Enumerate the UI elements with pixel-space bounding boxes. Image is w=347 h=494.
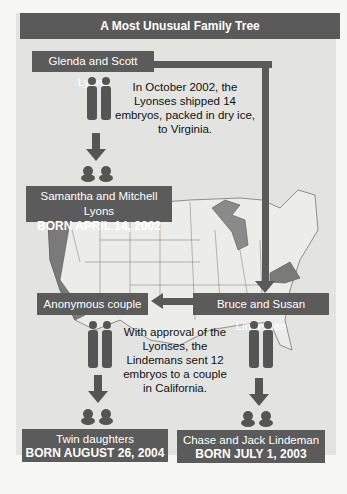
birth-date: BORN AUGUST 26, 2004 [22, 446, 168, 460]
arrow-down-icon [86, 133, 106, 161]
us-map [0, 0, 347, 494]
node-bruce-susan: Bruce and Susan Lindeman [193, 293, 329, 315]
parents-silhouette-icon [83, 320, 117, 370]
connector-lyons-to-virginia-v [262, 61, 269, 281]
arrow-down-icon [249, 378, 269, 406]
babies-icon [80, 408, 116, 426]
arrow-down-to-lindeman [255, 281, 275, 293]
arrow-left-to-anonymous [151, 293, 163, 309]
node-twin-daughters: Twin daughters BORN AUGUST 26, 2004 [22, 429, 168, 462]
babies-icon [240, 410, 276, 428]
node-chase-jack: Chase and Jack Lindeman BORN JULY 1, 200… [177, 430, 325, 463]
node-name: Chase and Jack Lindeman [177, 433, 325, 447]
parents-silhouette-icon [82, 76, 116, 121]
connector-lindeman-to-anonymous [163, 298, 193, 305]
node-samantha-mitchell: Samantha and Mitchell Lyons BORN APRIL 1… [26, 186, 172, 222]
note-approval: With approval of the Lyonses, the Lindem… [120, 325, 230, 395]
parents-silhouette-icon [244, 320, 278, 370]
note-shipment: In October 2002, the Lyonses shipped 14 … [115, 80, 255, 136]
node-name: Samantha and Mitchell Lyons [26, 189, 172, 219]
babies-icon [80, 165, 116, 183]
birth-date: BORN JULY 1, 2003 [177, 447, 325, 461]
arrow-down-icon [88, 375, 108, 403]
node-name: Twin daughters [22, 432, 168, 446]
birth-date: BORN APRIL 14, 2002 [26, 219, 172, 234]
node-glenda-scott: Glenda and Scott Lyons [32, 51, 154, 72]
node-anonymous-couple: Anonymous couple [37, 293, 148, 315]
node-name: Anonymous couple [44, 298, 142, 310]
